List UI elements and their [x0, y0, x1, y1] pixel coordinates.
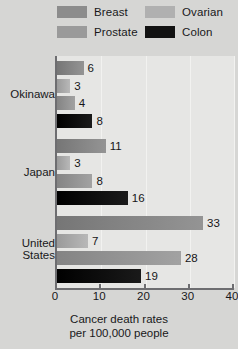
x-tick-label: 40: [226, 290, 238, 302]
bar-row: 4: [57, 96, 234, 110]
x-tick-mark: [55, 284, 57, 289]
x-axis-title: Cancer death rates per 100,000 people: [0, 313, 238, 340]
bar-ovarian-okinawa[interactable]: [57, 79, 70, 93]
bar-value-label: 6: [88, 62, 94, 74]
bar-value-label: 3: [74, 80, 80, 92]
bar-row: 7: [57, 234, 234, 248]
bar-row: 16: [57, 191, 234, 205]
x-tick-label: 0: [52, 290, 58, 302]
caption-line-1: Cancer death rates: [0, 313, 238, 327]
x-axis: 010203040: [55, 290, 232, 306]
legend-item-ovarian: Ovarian: [145, 2, 233, 22]
bar-value-label: 7: [92, 235, 98, 247]
legend-swatch-prostate: [57, 26, 87, 38]
x-tick-label: 10: [93, 290, 106, 302]
bar-group: 3372819: [57, 216, 234, 283]
bar-value-label: 8: [96, 175, 102, 187]
bar-value-label: 33: [207, 217, 220, 229]
bar-row: 6: [57, 61, 234, 75]
bar-row: 8: [57, 174, 234, 188]
bar-value-label: 28: [185, 252, 198, 264]
bar-row: 3: [57, 156, 234, 170]
bar-ovarian-japan[interactable]: [57, 156, 70, 170]
caption-line-2: per 100,000 people: [0, 327, 238, 341]
bar-value-label: 19: [145, 270, 158, 282]
bar-prostate-japan[interactable]: [57, 174, 92, 188]
legend-swatch-breast: [57, 6, 87, 18]
bar-breast-united-states[interactable]: [57, 216, 203, 230]
bar-colon-united-states[interactable]: [57, 269, 141, 283]
x-tick-mark: [144, 284, 146, 289]
group-label-japan: Japan: [0, 166, 55, 179]
bar-row: 3: [57, 79, 234, 93]
chart-legend: Breast Ovarian Prostate Colon: [57, 2, 233, 42]
x-tick-mark: [99, 284, 101, 289]
bar-row: 28: [57, 251, 234, 265]
legend-label-breast: Breast: [94, 6, 128, 18]
group-label-united-states: United States: [0, 237, 55, 262]
bar-prostate-united-states[interactable]: [57, 251, 181, 265]
bar-value-label: 11: [110, 140, 122, 152]
x-tick-label: 20: [137, 290, 150, 302]
bar-row: 19: [57, 269, 234, 283]
bar-value-label: 4: [79, 97, 85, 109]
x-tick-label: 30: [181, 290, 194, 302]
legend-label-colon: Colon: [182, 26, 213, 38]
x-tick-mark: [232, 284, 234, 289]
bar-group: 6348: [57, 61, 234, 128]
x-tick-mark: [188, 284, 190, 289]
bar-colon-okinawa[interactable]: [57, 114, 92, 128]
bar-breast-japan[interactable]: [57, 139, 106, 153]
legend-swatch-ovarian: [145, 6, 175, 18]
bar-prostate-okinawa[interactable]: [57, 96, 75, 110]
bar-ovarian-united-states[interactable]: [57, 234, 88, 248]
bar-row: 11: [57, 139, 234, 153]
bar-value-label: 3: [74, 157, 80, 169]
legend-item-colon: Colon: [145, 22, 233, 42]
group-label-okinawa: Okinawa: [0, 88, 55, 101]
bar-row: 33: [57, 216, 234, 230]
plot-area: 63481138163372819: [55, 56, 234, 290]
bar-value-label: 16: [132, 192, 145, 204]
legend-swatch-colon: [145, 26, 175, 38]
bar-breast-okinawa[interactable]: [57, 61, 84, 75]
legend-item-breast: Breast: [57, 2, 145, 22]
legend-label-prostate: Prostate: [94, 26, 138, 38]
legend-label-ovarian: Ovarian: [182, 6, 223, 18]
bar-colon-japan[interactable]: [57, 191, 128, 205]
bar-row: 8: [57, 114, 234, 128]
bar-group: 113816: [57, 139, 234, 206]
gridline: [234, 56, 235, 288]
legend-item-prostate: Prostate: [57, 22, 145, 42]
bar-value-label: 8: [96, 115, 102, 127]
